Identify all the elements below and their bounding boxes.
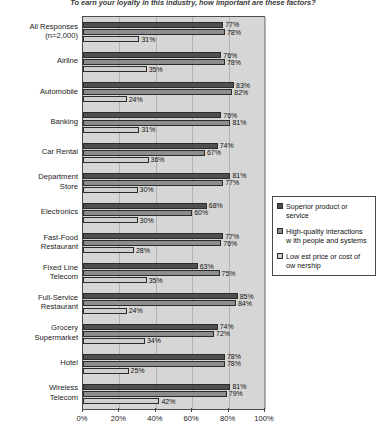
bar-value-label: 34% — [147, 337, 161, 344]
legend-swatch-icon — [277, 203, 283, 209]
bar-value-label: 78% — [227, 353, 241, 360]
category-label-line: Fast-Food — [0, 233, 78, 243]
bar — [83, 66, 147, 72]
category-label: Fast-FoodRestaurant — [0, 233, 78, 252]
category-label: Hotel — [0, 358, 78, 368]
bar-value-label: 76% — [223, 240, 237, 247]
x-axis: 0%20%40%60%80%100% — [82, 408, 265, 430]
bar-value-label: 83% — [236, 82, 250, 89]
bar — [83, 270, 220, 276]
legend-item: Superior product orservice — [277, 202, 371, 220]
bar — [83, 52, 221, 58]
bar-value-label: 76% — [223, 52, 237, 59]
bar — [83, 300, 236, 306]
category-label-line: Full-Service — [0, 293, 78, 303]
category-label-line: (n=2,000) — [0, 31, 78, 41]
bar-value-label: 35% — [149, 277, 163, 284]
category-label-line: Restaurant — [0, 302, 78, 312]
category-label-line: Department — [0, 172, 78, 182]
bar-value-label: 30% — [140, 186, 154, 193]
bar-value-label: 35% — [149, 66, 163, 73]
bar — [83, 324, 218, 330]
bar — [83, 398, 159, 404]
bar — [83, 89, 232, 95]
legend-swatch-icon — [277, 253, 283, 259]
bar-value-label: 74% — [220, 142, 234, 149]
category-label: Fixed LineTelecom — [0, 263, 78, 282]
category-label-line: Hotel — [0, 358, 78, 368]
category-label-line: Restaurant — [0, 242, 78, 252]
bar-value-label: 72% — [216, 330, 230, 337]
category-label-line: Airline — [0, 56, 78, 66]
category-axis-labels: All Responses(n=2,000)AirlineAutomobileB… — [0, 16, 78, 408]
plot-right-edge — [264, 17, 265, 409]
bar-group: 81%79%42% — [83, 379, 265, 409]
category-label: Full-ServiceRestaurant — [0, 293, 78, 312]
bar-rows: 77%78%31%76%78%35%83%82%24%76%81%31%74%6… — [83, 17, 265, 409]
bar — [83, 127, 139, 133]
bar — [83, 263, 198, 269]
bar — [83, 150, 205, 156]
bar — [83, 112, 221, 118]
category-label: Electronics — [0, 207, 78, 217]
category-label-line: Automobile — [0, 87, 78, 97]
category-label: GrocerySupermarket — [0, 323, 78, 342]
legend-label: Low est price or cost ofow nership — [286, 252, 360, 270]
x-axis-tick-label: 100% — [254, 414, 273, 423]
bar — [83, 247, 134, 253]
bar-value-label: 24% — [129, 96, 143, 103]
bar — [83, 338, 145, 344]
legend-swatch-icon — [277, 228, 283, 234]
bar-value-label: 84% — [238, 300, 252, 307]
x-axis-tick — [155, 408, 156, 412]
bar-group: 76%78%35% — [83, 47, 265, 77]
legend-label-line: Low est price or cost of — [286, 252, 360, 261]
bar — [83, 354, 225, 360]
bar — [83, 308, 127, 314]
bar-value-label: 68% — [209, 202, 223, 209]
bar — [83, 120, 230, 126]
category-label-line: Wireless — [0, 383, 78, 393]
bar-value-label: 63% — [200, 263, 214, 270]
bar-value-label: 77% — [225, 233, 239, 240]
x-axis-tick-label: 40% — [147, 414, 162, 423]
bar — [83, 173, 230, 179]
bar-value-label: 31% — [141, 126, 155, 133]
bar-group: 74%67%36% — [83, 138, 265, 168]
bar-group: 74%72%34% — [83, 319, 265, 349]
bar-value-label: 30% — [140, 217, 154, 224]
category-label: Banking — [0, 117, 78, 127]
bar — [83, 82, 234, 88]
bar-group: 78%78%25% — [83, 349, 265, 379]
bar-value-label: 78% — [227, 360, 241, 367]
bar-value-label: 82% — [234, 89, 248, 96]
category-label: Automobile — [0, 87, 78, 97]
bar — [83, 180, 223, 186]
bar-value-label: 81% — [232, 172, 246, 179]
bar — [83, 143, 218, 149]
category-label-line: Banking — [0, 117, 78, 127]
legend-label-line: Superior product or — [286, 202, 348, 211]
bar — [83, 157, 149, 163]
bar-value-label: 74% — [220, 323, 234, 330]
bar — [83, 391, 227, 397]
bar — [83, 293, 238, 299]
bar-value-label: 42% — [161, 398, 175, 405]
bar-value-label: 36% — [151, 156, 165, 163]
plot-area: 77%78%31%76%78%35%83%82%24%76%81%31%74%6… — [82, 16, 265, 410]
x-axis-tick — [228, 408, 229, 412]
legend-label-line: w ith people and systems — [286, 236, 367, 245]
bar — [83, 384, 230, 390]
bar-value-label: 81% — [232, 383, 246, 390]
bar-group: 85%84%24% — [83, 288, 265, 318]
legend-item: High-quality interactionsw ith people an… — [277, 227, 371, 245]
x-axis-tick-label: 60% — [184, 414, 199, 423]
legend-label: High-quality interactionsw ith people an… — [286, 227, 367, 245]
category-label: DepartmentStore — [0, 172, 78, 191]
category-label-line: Supermarket — [0, 333, 78, 343]
bar — [83, 203, 207, 209]
bar-group: 68%60%30% — [83, 198, 265, 228]
chart-title: To earn your loyalty in this industry, h… — [38, 0, 348, 7]
legend-label: Superior product orservice — [286, 202, 348, 220]
x-axis-tick — [264, 408, 265, 412]
